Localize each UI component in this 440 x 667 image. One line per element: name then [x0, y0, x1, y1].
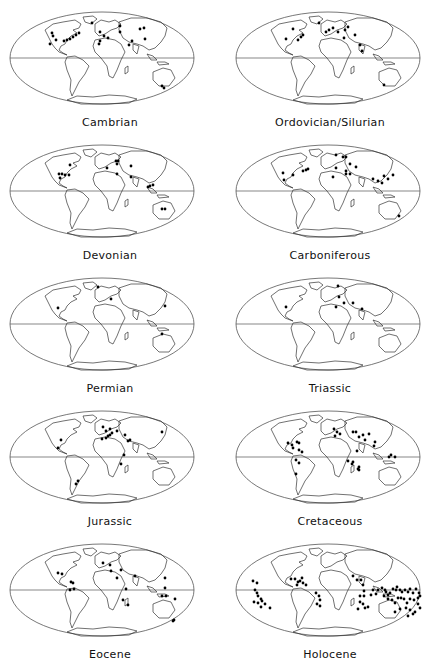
locality-dot [345, 156, 348, 159]
locality-dot [52, 35, 55, 38]
locality-dot [407, 615, 410, 618]
locality-dot [332, 27, 335, 30]
locality-dot [318, 22, 321, 25]
locality-dot [305, 584, 308, 587]
locality-dot [291, 444, 294, 447]
locality-dot [61, 573, 64, 576]
locality-dot [292, 447, 295, 450]
locality-dot [106, 167, 109, 170]
locality-dot [335, 306, 338, 309]
locality-dot [385, 591, 388, 594]
world-map [0, 532, 220, 647]
locality-dot [174, 598, 177, 601]
locality-dot [398, 215, 401, 218]
locality-dot [69, 38, 72, 41]
locality-dot [417, 603, 420, 606]
locality-dot [392, 588, 395, 591]
period-label: Eocene [0, 648, 220, 661]
locality-dot [412, 613, 415, 616]
locality-dot [337, 31, 340, 34]
period-label: Triassic [220, 382, 440, 395]
locality-dot [64, 174, 67, 177]
world-map [220, 0, 440, 115]
locality-dot [301, 451, 304, 454]
locality-dot [394, 602, 397, 605]
map-panel-cambrian: Cambrian [0, 0, 220, 133]
locality-dot [119, 31, 122, 34]
period-label: Permian [0, 382, 220, 395]
locality-dot [419, 607, 422, 610]
locality-dot [417, 597, 420, 600]
locality-dot [375, 593, 378, 596]
locality-dot [383, 175, 386, 178]
continent-outlines [271, 282, 401, 370]
locality-dot [73, 588, 76, 591]
continent-outlines [45, 149, 175, 237]
locality-dot [60, 439, 63, 442]
locality-dot [120, 463, 123, 466]
locality-dot [336, 431, 339, 434]
locality-dot [164, 208, 167, 211]
locality-dot [356, 579, 359, 582]
locality-dot [164, 577, 167, 580]
locality-dot [368, 433, 371, 436]
locality-dot [358, 469, 361, 472]
locality-dot [57, 447, 60, 450]
locality-dot [332, 176, 335, 179]
locality-dot [111, 432, 114, 435]
world-map [220, 133, 440, 248]
locality-dot [370, 594, 373, 597]
locality-dot [165, 595, 168, 598]
locality-dot [55, 39, 58, 42]
locality-dot [260, 598, 263, 601]
locality-dot [399, 589, 402, 592]
locality-dot [383, 84, 386, 87]
locality-dot [352, 461, 355, 464]
locality-dot [283, 179, 286, 182]
locality-dot [102, 426, 105, 429]
locality-dot [362, 603, 365, 606]
locality-dot [161, 208, 164, 211]
locality-dot [123, 454, 126, 457]
locality-dot [392, 174, 395, 177]
locality-dot [404, 589, 407, 592]
locality-dot [254, 589, 257, 592]
locality-dot [387, 178, 390, 181]
locality-dot [372, 589, 375, 592]
locality-dot [139, 28, 142, 31]
locality-dot [374, 441, 377, 444]
locality-dot [389, 592, 392, 595]
locality-dot [260, 606, 263, 609]
locality-dot [358, 466, 361, 469]
locality-dot [356, 450, 359, 453]
locality-dot [51, 32, 54, 35]
period-label: Holocene [220, 648, 440, 661]
locality-dot [103, 35, 106, 38]
locality-dot [333, 428, 336, 431]
locality-dot [130, 176, 133, 179]
locality-dot [381, 587, 384, 590]
locality-dot [345, 170, 348, 173]
locality-dot [359, 601, 362, 604]
locality-dot [328, 29, 331, 32]
locality-dot [390, 454, 393, 457]
locality-dot [256, 582, 259, 585]
locality-dot [161, 595, 164, 598]
locality-dot [72, 36, 75, 39]
locality-dot [127, 604, 130, 607]
locality-dot [334, 435, 337, 438]
locality-dot [391, 599, 394, 602]
period-label: Devonian [0, 249, 220, 262]
locality-dot [110, 570, 113, 573]
locality-dot [257, 602, 260, 605]
locality-dot [285, 306, 288, 309]
world-map [220, 399, 440, 514]
locality-dot [399, 608, 402, 611]
world-map [0, 399, 220, 514]
locality-dot [298, 462, 301, 465]
locality-dot [77, 480, 80, 483]
locality-dot [367, 606, 370, 609]
continent-outlines [271, 16, 401, 104]
locality-dot [355, 166, 358, 169]
locality-dot [144, 38, 147, 41]
